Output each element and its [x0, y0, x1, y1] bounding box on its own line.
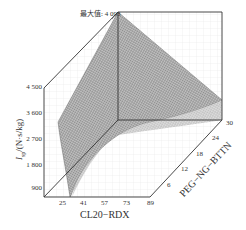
y-tick: 4 500: [8, 84, 42, 91]
x-tick: 89: [147, 200, 154, 207]
x-tick: 57: [101, 200, 108, 207]
z-tick: 18: [196, 151, 203, 158]
z-tick: 24: [212, 135, 219, 142]
z-tick: 6: [167, 182, 171, 189]
y-tick: 1 800: [8, 162, 42, 169]
x-tick: 73: [123, 200, 130, 207]
x-tick: 41: [80, 200, 87, 207]
surface-chart: 最大值: 4 093 4 500 3 600 2 700 1 800 900 I…: [0, 0, 246, 230]
z-tick: 12: [181, 166, 188, 173]
x-axis-title: CL20−RDX: [80, 210, 130, 220]
y-axis-title: Isp/(N·s/kg): [15, 119, 26, 160]
z-tick: 30: [226, 120, 233, 127]
max-annotation: 最大值: 4 093: [80, 11, 120, 18]
y-tick: 3 600: [8, 110, 42, 117]
y-tick: 900: [8, 185, 42, 192]
x-tick: 25: [59, 200, 66, 207]
